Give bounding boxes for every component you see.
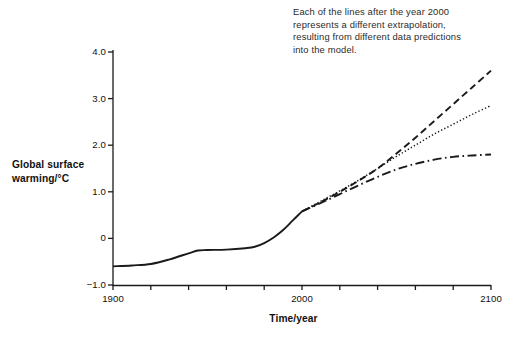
series-line-dotted <box>302 106 491 212</box>
annotation-line-1: Each of the lines after the year 2000 <box>293 6 508 19</box>
series-line-dashed <box>302 71 491 212</box>
y-axis-title-line-2: warming/°C <box>12 172 108 186</box>
annotation-line-2: represents a different extrapolation, <box>293 19 508 32</box>
x-tick-label: 2000 <box>279 293 325 304</box>
y-tick-marks <box>108 52 113 285</box>
y-axis-title-line-1: Global surface <box>12 158 108 172</box>
y-tick-label: 3.0 <box>72 93 106 104</box>
y-axis-title: Global surface warming/°C <box>12 158 108 185</box>
chart-annotation: Each of the lines after the year 2000 re… <box>293 6 508 56</box>
y-tick-label: 2.0 <box>72 139 106 150</box>
series-line-solid <box>113 211 302 266</box>
y-tick-label: 1.0 <box>72 186 106 197</box>
y-tick-label: −1.0 <box>72 279 106 290</box>
x-tick-label: 1900 <box>90 293 136 304</box>
series-line-dash-dot <box>302 155 491 212</box>
x-axis-title: Time/year <box>0 313 515 324</box>
climate-projection-chart: Each of the lines after the year 2000 re… <box>0 0 515 337</box>
axes-group <box>113 50 491 286</box>
annotation-line-3: resulting from different data prediction… <box>293 31 508 44</box>
x-axis-title-text: Time/year <box>269 313 317 324</box>
y-tick-label: 4.0 <box>72 46 106 57</box>
data-series-group <box>113 71 491 267</box>
y-tick-label: 0 <box>72 232 106 243</box>
annotation-line-4: into the model. <box>293 44 508 57</box>
x-tick-label: 2100 <box>468 293 514 304</box>
